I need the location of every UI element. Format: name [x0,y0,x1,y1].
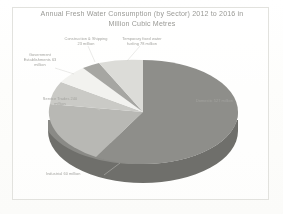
pie-top-face [49,60,238,164]
industrial-label: Industrial 60 million [46,172,106,177]
domestic-label: Domestic 527 million [196,99,252,104]
leader-temporary [127,46,140,61]
slice-domestic-d [143,60,238,112]
leader-government [55,68,74,74]
government-label: Government Establishments 63 million [14,53,66,68]
construction-label: Construction & Shipping 23 million [62,37,110,47]
leader-construction [88,46,95,62]
pie-graphic [0,0,283,214]
service-trades-label: Service Trades 240 million [36,97,84,107]
pie-chart: Annual Fresh Water Consumption (by Secto… [0,0,283,214]
temporary-label: Temporary fixed water fueling 78 million [114,37,170,47]
